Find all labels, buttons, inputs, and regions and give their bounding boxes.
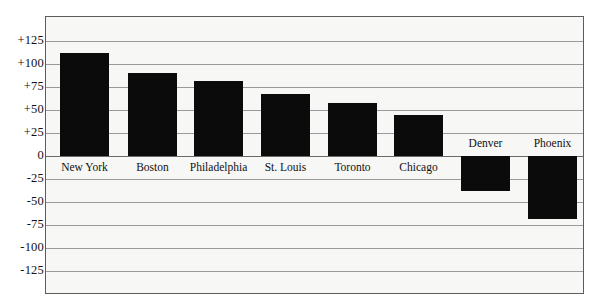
bar-chart: +125+100+75+50+250-25-50-75-100-125 New … bbox=[0, 0, 596, 308]
category-label: Toronto bbox=[316, 162, 389, 174]
gridline-minus100 bbox=[46, 248, 583, 249]
bar bbox=[60, 53, 109, 156]
category-label: St. Louis bbox=[249, 162, 322, 174]
y-axis-tick-label: +75 bbox=[4, 80, 44, 93]
category-label: Denver bbox=[449, 138, 522, 150]
gridline-plus50 bbox=[46, 110, 583, 111]
y-axis-tick-label: +100 bbox=[4, 57, 44, 70]
y-axis-tick-label: +125 bbox=[4, 34, 44, 47]
category-label: Chicago bbox=[382, 162, 455, 174]
gridline-plus25 bbox=[46, 133, 583, 134]
gridline-minus125 bbox=[46, 271, 583, 272]
y-axis-tick-label: +50 bbox=[4, 103, 44, 116]
bar bbox=[128, 73, 177, 156]
y-axis-tick-label: 0 bbox=[4, 149, 44, 162]
bar bbox=[528, 156, 577, 219]
y-axis-tick-label: -125 bbox=[4, 264, 44, 277]
bar bbox=[261, 94, 310, 156]
bar bbox=[461, 156, 510, 191]
y-axis-tick-label: -50 bbox=[4, 195, 44, 208]
plot-area: New YorkBostonPhiladelphiaSt. LouisToron… bbox=[45, 16, 584, 294]
gridline-minus75 bbox=[46, 225, 583, 226]
category-label: Phoenix bbox=[516, 138, 584, 150]
gridline-minus50 bbox=[46, 202, 583, 203]
bar bbox=[394, 115, 443, 156]
category-label: Philadelphia bbox=[182, 162, 255, 174]
category-label: New York bbox=[48, 162, 121, 174]
y-axis-tick-label: -100 bbox=[4, 241, 44, 254]
gridline-plus125 bbox=[46, 41, 583, 42]
bar bbox=[194, 81, 243, 156]
bar bbox=[328, 103, 377, 156]
y-axis-tick-label: -25 bbox=[4, 172, 44, 185]
category-label: Boston bbox=[116, 162, 189, 174]
gridline-plus75 bbox=[46, 87, 583, 88]
gridline-plus100 bbox=[46, 64, 583, 65]
y-axis-tick-label: -75 bbox=[4, 218, 44, 231]
y-axis-tick-label: +25 bbox=[4, 126, 44, 139]
